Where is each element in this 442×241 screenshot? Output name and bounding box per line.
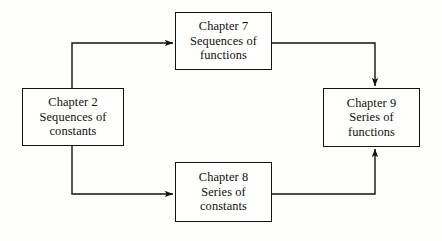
node-chapter-2-line-2: Sequences of: [40, 110, 107, 124]
node-chapter-2: Chapter 2 Sequences of constants: [22, 88, 124, 146]
node-chapter-7-line-2: Sequences of: [190, 34, 257, 48]
node-chapter-2-line-3: constants: [49, 124, 96, 138]
edge-ch7-to-ch9: [272, 43, 375, 86]
node-chapter-8-line-1: Chapter 8: [199, 170, 248, 184]
node-chapter-8-line-3: constants: [200, 199, 247, 213]
node-chapter-7-line-3: functions: [200, 48, 247, 62]
chapter-dependency-diagram: Chapter 2 Sequences of constants Chapter…: [0, 0, 442, 241]
node-chapter-7-line-1: Chapter 7: [199, 19, 248, 33]
node-chapter-9-line-2: Series of: [349, 110, 394, 124]
node-chapter-7: Chapter 7 Sequences of functions: [175, 12, 272, 70]
node-chapter-9: Chapter 9 Series of functions: [323, 88, 420, 147]
node-chapter-8: Chapter 8 Series of constants: [175, 162, 272, 222]
edge-ch8-to-ch9: [272, 149, 375, 194]
edge-ch2-to-ch8: [72, 146, 173, 194]
node-chapter-8-line-2: Series of: [201, 185, 246, 199]
node-chapter-9-line-3: functions: [348, 125, 395, 139]
node-chapter-9-line-1: Chapter 9: [347, 96, 396, 110]
edge-ch2-to-ch7: [72, 43, 173, 88]
node-chapter-2-line-1: Chapter 2: [48, 95, 97, 109]
